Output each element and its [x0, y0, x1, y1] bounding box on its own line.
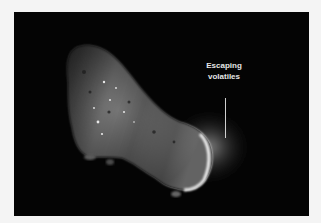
annotation-leader-line [225, 98, 226, 138]
comet-photograph [14, 12, 309, 216]
comet-nucleus-illustration [14, 12, 309, 216]
annotation-label: Escaping volatiles [189, 60, 259, 82]
annotation-line-1: Escaping [189, 60, 259, 71]
annotation-line-2: volatiles [189, 71, 259, 82]
